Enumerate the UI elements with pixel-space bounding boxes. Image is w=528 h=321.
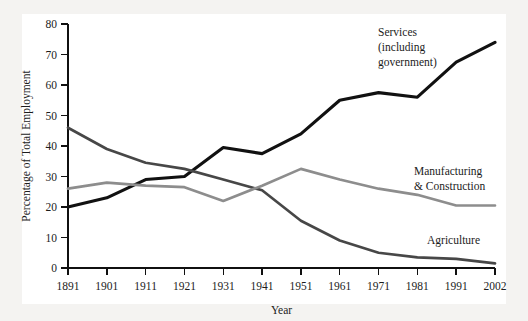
x-tick-label-1941: 1941: [251, 280, 274, 292]
x-tick-label-1911: 1911: [134, 280, 157, 292]
manufacturing-label-line-0: Manufacturing: [414, 165, 483, 178]
y-tick-label-60: 60: [46, 79, 58, 91]
y-tick-label-70: 70: [46, 49, 58, 61]
x-tick-label-1951: 1951: [289, 280, 312, 292]
y-tick-labels: 01020304050607080: [46, 18, 58, 274]
y-axis-group: 01020304050607080 Percentage of Total Em…: [20, 18, 68, 274]
x-tick-label-1981: 1981: [406, 280, 429, 292]
services-label-line-0: Services: [378, 26, 417, 38]
chart-figure: 01020304050607080 Percentage of Total Em…: [0, 0, 528, 321]
y-axis-title: Percentage of Total Employment: [20, 70, 33, 222]
x-axis-group: 1891190119111921193119411951196119711981…: [57, 268, 507, 316]
y-tick-label-50: 50: [46, 110, 58, 122]
x-tick-label-1921: 1921: [173, 280, 196, 292]
services-label-line-1: (including: [378, 41, 426, 54]
agriculture-label: Agriculture: [427, 234, 480, 247]
y-tick-label-30: 30: [46, 171, 58, 183]
y-tick-label-20: 20: [46, 201, 58, 213]
x-tick-label-1901: 1901: [95, 280, 118, 292]
x-tick-label-1991: 1991: [445, 280, 468, 292]
manufacturing-label: Manufacturing& Construction: [414, 165, 485, 192]
y-tick-label-0: 0: [51, 262, 57, 274]
x-tick-labels: 1891190119111921193119411951196119711981…: [57, 280, 507, 292]
employment-line-chart: 01020304050607080 Percentage of Total Em…: [0, 0, 528, 321]
series-annotations: Services(includinggovernment)Manufacturi…: [378, 26, 485, 247]
y-tick-label-80: 80: [46, 18, 58, 30]
x-axis-title: Year: [271, 304, 292, 316]
x-tick-label-1961: 1961: [328, 280, 351, 292]
services-label: Services(includinggovernment): [378, 26, 437, 69]
y-tick-label-10: 10: [46, 232, 58, 244]
services-label-line-2: government): [378, 56, 437, 69]
x-tick-label-1931: 1931: [212, 280, 235, 292]
manufacturing-label-line-1: & Construction: [414, 180, 485, 192]
data-series-group: [68, 42, 495, 263]
x-tick-label-1891: 1891: [57, 280, 80, 292]
y-tick-marks: [61, 24, 68, 268]
y-tick-label-40: 40: [46, 140, 58, 152]
agriculture-label-line-0: Agriculture: [427, 234, 480, 247]
x-tick-marks: [68, 268, 495, 275]
x-tick-label-2002: 2002: [484, 280, 507, 292]
x-tick-label-1971: 1971: [367, 280, 390, 292]
